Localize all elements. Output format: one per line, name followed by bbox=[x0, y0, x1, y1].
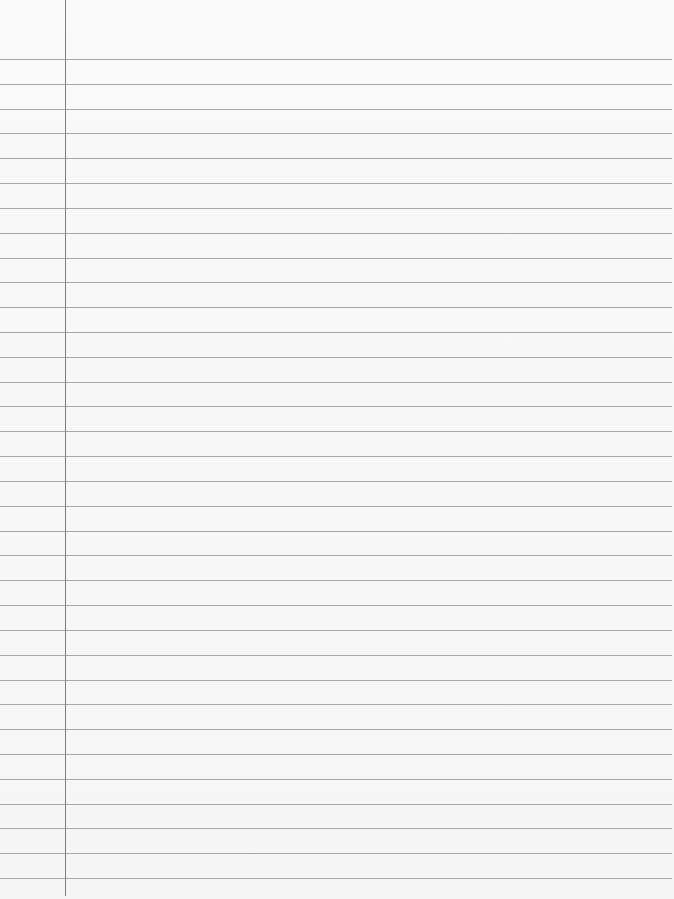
ruled-line bbox=[0, 655, 672, 656]
ruled-line bbox=[0, 555, 672, 556]
ruled-line bbox=[0, 580, 672, 581]
ruled-line bbox=[0, 481, 672, 482]
ruled-line bbox=[0, 630, 672, 631]
lined-paper bbox=[0, 0, 674, 899]
ruled-line bbox=[0, 828, 672, 829]
ruled-line bbox=[0, 779, 672, 780]
ruled-line bbox=[0, 456, 672, 457]
ruled-line bbox=[0, 133, 672, 134]
ruled-line bbox=[0, 59, 672, 60]
ruled-line bbox=[0, 729, 672, 730]
ruled-line bbox=[0, 506, 672, 507]
ruled-line bbox=[0, 406, 672, 407]
ruled-line bbox=[0, 878, 672, 879]
ruled-line bbox=[0, 282, 672, 283]
ruled-line bbox=[0, 208, 672, 209]
ruled-line bbox=[0, 382, 672, 383]
ruled-line bbox=[0, 605, 672, 606]
ruled-line bbox=[0, 109, 672, 110]
ruled-line bbox=[0, 680, 672, 681]
ruled-line bbox=[0, 332, 672, 333]
ruled-line bbox=[0, 84, 672, 85]
ruled-line bbox=[0, 704, 672, 705]
ruled-line bbox=[0, 183, 672, 184]
ruled-line bbox=[0, 233, 672, 234]
ruled-line bbox=[0, 853, 672, 854]
ruled-line bbox=[0, 804, 672, 805]
ruled-line bbox=[0, 357, 672, 358]
ruled-line bbox=[0, 431, 672, 432]
ruled-line bbox=[0, 258, 672, 259]
ruled-line bbox=[0, 307, 672, 308]
ruled-line bbox=[0, 158, 672, 159]
margin-line bbox=[65, 0, 66, 896]
ruled-line bbox=[0, 531, 672, 532]
ruled-line bbox=[0, 754, 672, 755]
